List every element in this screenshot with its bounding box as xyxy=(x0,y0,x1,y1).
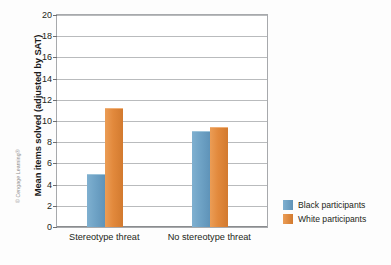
copyright-notice: © Cengage Learning® xyxy=(15,123,21,203)
bar xyxy=(192,131,210,227)
y-axis-title: Mean items solved (adjusted by SAT) xyxy=(32,16,43,216)
bar-chart-figure: © Cengage Learning® Mean items solved (a… xyxy=(0,0,391,265)
gridline xyxy=(57,79,267,80)
gridline xyxy=(57,121,267,122)
gridline xyxy=(57,142,267,143)
y-tick-label: 0 xyxy=(47,222,52,232)
legend-item: Black participants xyxy=(283,200,366,210)
legend-swatch-icon xyxy=(283,200,293,210)
gridline xyxy=(57,15,267,16)
y-tick-label: 6 xyxy=(47,158,52,168)
y-tick-mark xyxy=(53,163,57,164)
y-tick-label: 12 xyxy=(42,95,52,105)
y-tick-label: 14 xyxy=(42,74,52,84)
plot-area: 02468101214161820 xyxy=(56,14,268,228)
y-tick-mark xyxy=(53,185,57,186)
bar xyxy=(210,127,228,227)
y-tick-mark xyxy=(53,57,57,58)
x-category-label: No stereotype threat xyxy=(139,232,279,242)
y-tick-label: 16 xyxy=(42,52,52,62)
y-tick-mark xyxy=(53,36,57,37)
legend-label: Black participants xyxy=(298,200,365,210)
y-tick-label: 18 xyxy=(42,31,52,41)
y-tick-mark xyxy=(53,15,57,16)
gridline xyxy=(57,36,267,37)
y-tick-mark xyxy=(53,79,57,80)
bar xyxy=(87,174,105,227)
legend-label: White participants xyxy=(298,214,366,224)
legend-item: White participants xyxy=(283,214,366,224)
y-tick-label: 4 xyxy=(47,180,52,190)
gridline xyxy=(57,57,267,58)
y-tick-label: 2 xyxy=(47,201,52,211)
gridline xyxy=(57,163,267,164)
bar xyxy=(105,108,123,227)
y-tick-label: 20 xyxy=(42,10,52,20)
y-tick-mark xyxy=(53,121,57,122)
gridline xyxy=(57,100,267,101)
y-tick-label: 10 xyxy=(42,116,52,126)
y-tick-label: 8 xyxy=(47,137,52,147)
y-tick-mark xyxy=(53,142,57,143)
legend-swatch-icon xyxy=(283,214,293,224)
y-tick-mark xyxy=(53,206,57,207)
y-tick-mark xyxy=(53,227,57,228)
y-tick-mark xyxy=(53,100,57,101)
chart-legend: Black participantsWhite participants xyxy=(283,200,366,224)
